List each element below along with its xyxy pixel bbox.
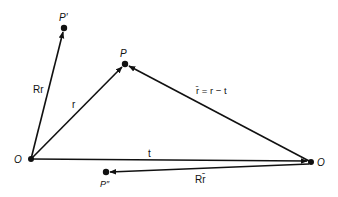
label-O-right: O — [317, 157, 325, 168]
vector-t — [31, 159, 307, 161]
label-t: t — [148, 148, 151, 159]
label-P-prime: P′ — [59, 12, 69, 23]
label-Rr: Rr — [33, 84, 44, 95]
vector-rbar — [129, 66, 311, 162]
point-P — [122, 61, 128, 67]
label-P: P — [120, 48, 127, 59]
label-P-double-prime: P″ — [100, 179, 110, 189]
label-rbar-equation: r̄ = r − t — [195, 85, 227, 96]
vector-diagram: O O P P′ P″ Rr r t r̄ = r − t Rr̄ — [0, 0, 338, 197]
point-P-double-prime — [103, 169, 109, 175]
label-Rrbar: Rr̄ — [195, 173, 206, 185]
vector-r — [31, 67, 122, 159]
vector-Rr — [31, 32, 63, 159]
point-O-right — [308, 159, 314, 165]
point-P-prime — [61, 25, 67, 31]
point-O-left — [28, 156, 34, 162]
label-r: r — [72, 99, 76, 110]
vector-Rrbar — [110, 164, 309, 172]
label-O-left: O — [14, 154, 22, 165]
